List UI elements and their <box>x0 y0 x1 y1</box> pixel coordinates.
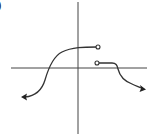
open-circle-icon <box>95 61 99 65</box>
open-circle-icon <box>96 45 100 49</box>
function-graph <box>0 0 156 134</box>
arrow-right-icon <box>140 85 147 92</box>
curve-right-piece <box>99 63 141 88</box>
curve-left-piece <box>25 47 97 97</box>
